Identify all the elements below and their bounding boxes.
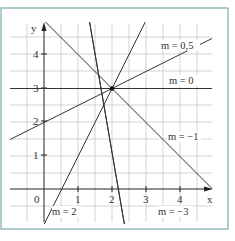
y-axis-label: y — [31, 22, 37, 34]
slope-label-m-0: m = 0 — [169, 75, 194, 86]
x-tick-label: 2 — [109, 193, 115, 205]
coordinate-plot: y x 0 1 2 3 4 1 2 3 4 m = 0,5 m = 0 m = … — [0, 0, 235, 241]
slope-lines-figure: y x 0 1 2 3 4 1 2 3 4 m = 0,5 m = 0 m = … — [0, 0, 235, 241]
x-tick-label: 4 — [177, 193, 183, 205]
y-tick-label: 1 — [33, 149, 39, 161]
slope-label-m-0.5: m = 0,5 — [161, 40, 193, 51]
slope-label-m-2: m = 2 — [52, 206, 77, 217]
y-tick-label: 2 — [33, 115, 39, 127]
y-tick-label: 4 — [33, 48, 39, 60]
x-tick-label: 1 — [75, 193, 81, 205]
x-axis-label: x — [207, 193, 213, 205]
origin-label: 0 — [34, 193, 40, 205]
intersection-point — [110, 86, 114, 90]
slope-label-m-neg1: m = −1 — [168, 131, 199, 142]
x-tick-label: 3 — [143, 193, 149, 205]
slope-label-m-neg3: m = −3 — [158, 206, 189, 217]
y-tick-label: 3 — [33, 82, 39, 94]
